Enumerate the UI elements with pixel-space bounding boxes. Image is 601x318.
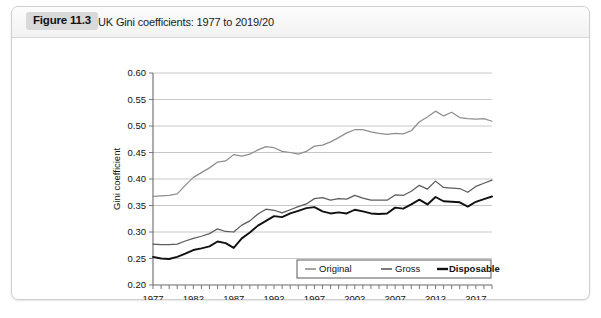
y-axis-tick-label: 0.55 xyxy=(128,94,147,105)
y-axis-title: Gini coefficient xyxy=(111,148,122,210)
x-axis-tick-label: 1982 xyxy=(183,293,204,300)
y-axis-tick-label: 0.25 xyxy=(128,253,147,264)
legend-label-disposable: Disposable xyxy=(449,263,500,274)
x-axis-tick-label: 2007 xyxy=(385,293,406,300)
figure-caption: UK Gini coefficients: 1977 to 2019/20 xyxy=(98,15,274,29)
x-axis-tick-label: 2012 xyxy=(425,293,446,300)
gini-line-chart: 0.200.250.300.350.400.450.500.550.601977… xyxy=(12,38,591,300)
x-axis-tick-label: 2002 xyxy=(344,293,365,300)
x-axis-tick-label: 1997 xyxy=(304,293,325,300)
chart-plot-area: 0.200.250.300.350.400.450.500.550.601977… xyxy=(12,38,589,300)
x-axis-tick-label: 1992 xyxy=(264,293,285,300)
y-axis-tick-label: 0.30 xyxy=(128,226,147,237)
y-axis-tick-label: 0.40 xyxy=(128,173,147,184)
figure-card: Figure 11.3 UK Gini coefficients: 1977 t… xyxy=(11,6,590,300)
page-footer xyxy=(0,303,601,318)
series-line-gross xyxy=(153,180,492,245)
figure-number-badge: Figure 11.3 xyxy=(26,12,98,30)
y-axis-tick-label: 0.20 xyxy=(128,279,147,290)
y-axis-tick-label: 0.35 xyxy=(128,200,147,211)
x-axis-tick-label: 1987 xyxy=(223,293,244,300)
x-axis-tick-label: 2017 xyxy=(465,293,486,300)
x-axis-tick-label: 1977 xyxy=(142,293,163,300)
y-axis-tick-label: 0.50 xyxy=(128,120,147,131)
y-axis-tick-label: 0.45 xyxy=(128,147,147,158)
y-axis-tick-label: 0.60 xyxy=(128,67,147,78)
legend-label-gross: Gross xyxy=(395,263,421,274)
series-line-original xyxy=(153,111,492,196)
figure-header: Figure 11.3 UK Gini coefficients: 1977 t… xyxy=(12,7,589,38)
legend-label-original: Original xyxy=(319,263,352,274)
